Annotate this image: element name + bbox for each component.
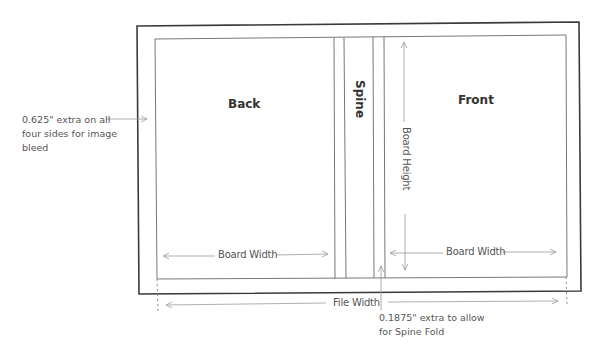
bleed-note-line-2: four sides for image xyxy=(22,127,117,141)
front-panel-label: Front xyxy=(458,93,494,107)
inner-trim-boundary xyxy=(155,35,567,279)
book-cover-layout-diagram xyxy=(0,0,601,356)
left-extension-dashed xyxy=(157,279,158,311)
bleed-note: 0.625" extra on all four sides for image… xyxy=(22,113,117,155)
file-width-label: File Width xyxy=(333,297,380,308)
board-width-right-label: Board Width xyxy=(446,246,505,257)
spine-right-line xyxy=(373,37,374,278)
spine-panel-label: Spine xyxy=(353,80,367,118)
spine-hinge-line-2 xyxy=(384,37,385,278)
spine-hinge-line-1 xyxy=(334,38,335,278)
spine-fold-note-line-1: 0.1875" extra to allow xyxy=(379,311,485,325)
bleed-note-line-3: bleed xyxy=(22,141,117,155)
board-width-left-label: Board Width xyxy=(218,249,277,260)
spine-left-line xyxy=(344,38,346,278)
board-height-label: Board Height xyxy=(401,127,412,190)
back-panel-label: Back xyxy=(228,97,260,111)
outer-file-boundary xyxy=(137,22,581,294)
bleed-note-line-1: 0.625" extra on all xyxy=(22,113,117,127)
spine-fold-note-line-2: for Spine Fold xyxy=(379,325,485,339)
spine-fold-note: 0.1875" extra to allow for Spine Fold xyxy=(379,311,485,339)
